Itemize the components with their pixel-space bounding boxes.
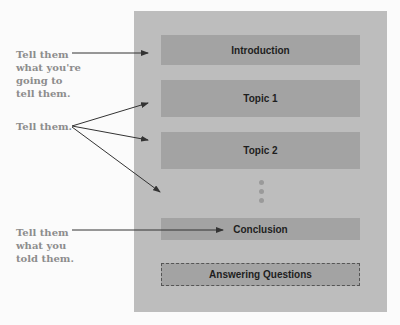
arrow-to-topic-1 bbox=[72, 103, 148, 126]
arrow-to-topic-2 bbox=[72, 126, 148, 140]
arrows bbox=[0, 0, 400, 325]
arrow-to-ellipsis bbox=[72, 127, 160, 192]
